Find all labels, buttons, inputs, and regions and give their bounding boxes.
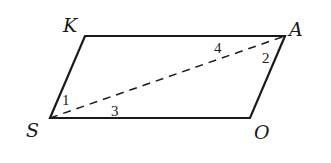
diagonal-sa (50, 36, 285, 118)
vertex-label-o: O (254, 121, 270, 143)
vertex-label-s: S (26, 119, 39, 141)
angle-label-3: 3 (111, 103, 119, 119)
parallelogram-diagram: K A S O 1 2 3 4 (0, 0, 331, 163)
vertex-label-k: K (62, 14, 79, 36)
angle-label-1: 1 (62, 92, 70, 108)
angle-label-2: 2 (262, 50, 270, 66)
angle-label-4: 4 (214, 40, 222, 56)
vertex-label-a: A (287, 18, 303, 40)
